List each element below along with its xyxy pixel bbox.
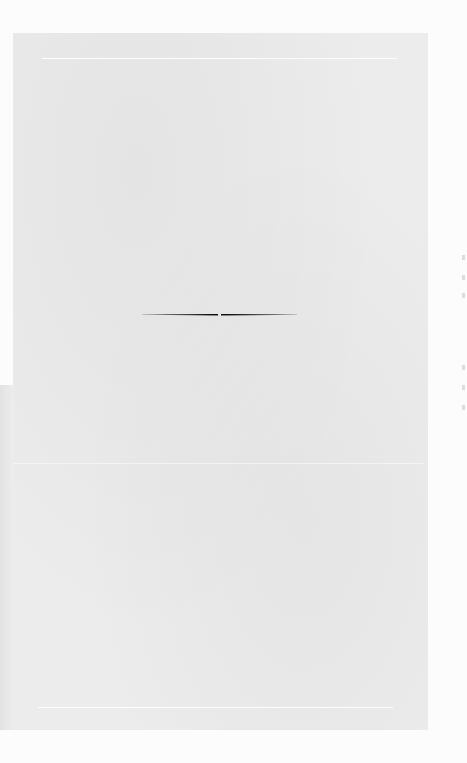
rule-right-half xyxy=(221,314,297,316)
decorative-divider-rule xyxy=(141,313,298,316)
page-edge-bleed-through xyxy=(462,255,466,435)
rule-center-gap xyxy=(218,314,221,316)
binding-shadow xyxy=(0,385,14,730)
scan-artifact-line-bottom xyxy=(38,707,393,708)
scan-artifact-line-middle xyxy=(14,463,424,464)
paper-area xyxy=(13,33,428,730)
scanned-page xyxy=(0,0,467,763)
rule-left-half xyxy=(142,314,218,316)
scan-artifact-line-top xyxy=(42,58,397,59)
